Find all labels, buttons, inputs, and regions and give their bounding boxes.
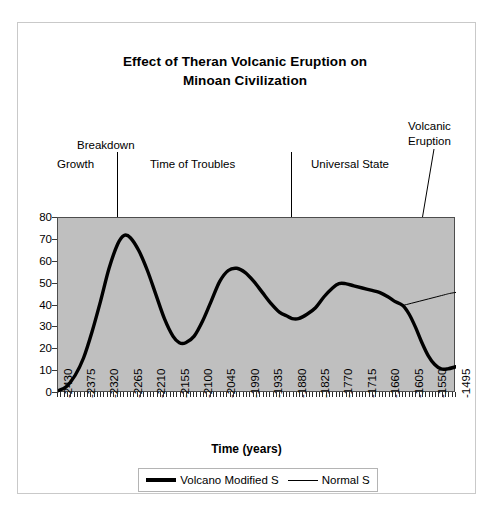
x-tick-mark <box>356 392 357 397</box>
x-tick-mark <box>319 392 320 397</box>
x-tick-mark <box>94 392 95 397</box>
x-tick-mark <box>163 392 164 397</box>
x-tick-mark <box>342 392 343 397</box>
x-tick-mark <box>379 392 380 397</box>
chart-title: Effect of Theran Volcanic Eruption on Mi… <box>40 52 450 90</box>
annotation-breakdown: Breakdown <box>77 138 135 153</box>
x-tick-mark <box>372 392 373 397</box>
x-tick-mark <box>429 392 430 397</box>
x-tick-mark <box>336 392 337 397</box>
y-tick-label: 60 <box>6 255 52 267</box>
x-tick-mark <box>326 392 327 397</box>
x-tick-mark <box>263 392 264 397</box>
x-tick-mark <box>190 392 191 397</box>
x-tick-mark <box>259 392 260 397</box>
x-tick-mark <box>160 392 161 397</box>
x-tick-mark <box>166 392 167 397</box>
x-tick-mark <box>349 392 350 397</box>
x-tick-mark <box>120 392 121 397</box>
x-tick-mark <box>375 392 376 397</box>
y-tick-label: 10 <box>6 364 52 376</box>
legend-label-volcano-modified-s: Volcano Modified S <box>180 474 278 486</box>
x-tick-mark <box>137 392 138 397</box>
x-tick-mark <box>419 392 420 397</box>
series-normal-s <box>403 292 456 305</box>
x-tick-mark <box>246 392 247 397</box>
y-axis: 01020304050607080 <box>0 210 57 400</box>
annotation-volcanic-eruption: Volcanic Eruption <box>408 119 451 149</box>
plot-area <box>57 217 455 392</box>
x-tick-mark <box>153 392 154 397</box>
x-tick-mark <box>329 392 330 397</box>
x-tick-mark <box>362 392 363 397</box>
x-tick-mark <box>448 392 449 397</box>
x-tick-mark <box>183 392 184 397</box>
legend-item-volcano-modified-s: Volcano Modified S <box>146 474 278 486</box>
x-tick-mark <box>133 392 134 397</box>
x-tick-mark <box>442 392 443 397</box>
x-tick-mark <box>299 392 300 397</box>
x-tick-mark <box>276 392 277 397</box>
x-tick-mark <box>220 392 221 397</box>
x-tick-mark <box>103 392 104 397</box>
x-tick-mark <box>322 392 323 397</box>
x-tick-mark <box>216 392 217 397</box>
chart-legend: Volcano Modified S Normal S <box>138 468 378 492</box>
x-tick-mark <box>203 392 204 397</box>
x-tick-mark <box>226 392 227 397</box>
x-tick-mark <box>80 392 81 397</box>
x-tick-mark <box>269 392 270 397</box>
x-tick-mark <box>266 392 267 397</box>
x-tick-mark <box>369 392 370 397</box>
x-tick-mark <box>352 392 353 397</box>
x-tick-mark <box>77 392 78 397</box>
x-tick-mark <box>117 392 118 397</box>
annotation-volcanic-eruption-line1: Volcanic <box>408 119 451 134</box>
x-tick-mark <box>302 392 303 397</box>
legend-item-normal-s: Normal S <box>288 474 370 486</box>
annotation-time-of-troubles: Time of Troubles <box>150 157 235 172</box>
x-tick-mark <box>60 392 61 397</box>
y-tick-label: 70 <box>6 233 52 245</box>
x-tick-mark <box>193 392 194 397</box>
x-tick-mark <box>123 392 124 397</box>
x-tick-mark <box>130 392 131 397</box>
x-tick-mark <box>173 392 174 397</box>
series-volcano-modified-s <box>58 235 456 391</box>
x-tick-mark <box>176 392 177 397</box>
legend-label-normal-s: Normal S <box>322 474 370 486</box>
x-tick-mark <box>346 392 347 397</box>
x-tick-mark <box>339 392 340 397</box>
plot-svg <box>58 218 456 393</box>
x-tick-mark <box>87 392 88 397</box>
x-tick-mark <box>157 392 158 397</box>
x-tick-mark <box>389 392 390 397</box>
x-tick-mark <box>412 392 413 397</box>
legend-swatch-thin <box>288 480 318 481</box>
x-axis-title: Time (years) <box>0 442 493 456</box>
y-tick-label: 50 <box>6 277 52 289</box>
x-tick-mark <box>170 392 171 397</box>
chart-screenshot: Effect of Theran Volcanic Eruption on Mi… <box>0 0 493 519</box>
x-tick-mark <box>415 392 416 397</box>
x-tick-mark <box>279 392 280 397</box>
x-tick-mark <box>253 392 254 397</box>
x-tick-mark <box>97 392 98 397</box>
x-tick-mark <box>107 392 108 397</box>
x-tick-mark <box>200 392 201 397</box>
x-tick-mark <box>223 392 224 397</box>
x-tick-mark <box>385 392 386 397</box>
x-tick-mark <box>316 392 317 397</box>
x-tick-mark <box>230 392 231 397</box>
x-tick-mark <box>395 392 396 397</box>
x-tick-mark <box>213 392 214 397</box>
x-tick-mark <box>435 392 436 397</box>
x-tick-mark <box>286 392 287 397</box>
x-tick-mark <box>143 392 144 397</box>
y-tick-label: 20 <box>6 342 52 354</box>
x-tick-mark <box>64 392 65 397</box>
y-tick-label: 30 <box>6 320 52 332</box>
x-tick-mark <box>438 392 439 397</box>
x-tick-mark <box>359 392 360 397</box>
x-tick-mark <box>452 392 453 397</box>
